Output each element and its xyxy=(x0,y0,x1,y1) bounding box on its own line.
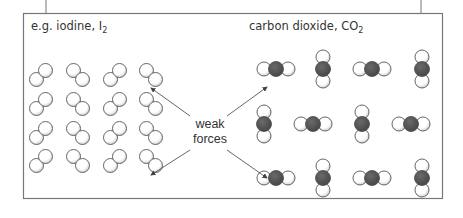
co2-molecule xyxy=(257,62,295,77)
iodine-molecule xyxy=(30,64,53,87)
iodine-molecule xyxy=(30,122,53,145)
iodine-label: e.g. iodine, I2 xyxy=(31,19,107,35)
co2-label: carbon dioxide, CO2 xyxy=(249,19,363,35)
iodine-molecule xyxy=(140,64,163,87)
iodine-molecule xyxy=(67,93,90,116)
iodine-molecule xyxy=(140,93,163,116)
iodine-molecule xyxy=(67,122,90,145)
iodine-molecule xyxy=(104,93,127,116)
co2-molecule xyxy=(316,159,331,197)
co2-molecule xyxy=(415,159,430,197)
co2-molecule xyxy=(415,50,430,88)
iodine-molecule xyxy=(104,64,127,87)
co2-molecule xyxy=(355,105,370,143)
iodine-molecule xyxy=(140,150,163,173)
co2-molecule xyxy=(316,50,331,88)
iodine-molecule xyxy=(140,122,163,145)
co2-molecule xyxy=(294,117,332,132)
weak-forces-line2: forces xyxy=(185,132,235,147)
co2-molecule xyxy=(257,171,295,186)
iodine-molecule xyxy=(67,150,90,173)
weak-forces-label: weak forces xyxy=(185,117,235,147)
weak-forces-line1: weak xyxy=(185,117,235,132)
co2-molecule xyxy=(257,105,272,143)
iodine-molecule xyxy=(67,64,90,87)
iodine-molecule xyxy=(30,150,53,173)
co2-molecule xyxy=(353,62,391,77)
iodine-molecule xyxy=(104,122,127,145)
iodine-molecule xyxy=(104,150,127,173)
co2-molecule xyxy=(392,117,430,132)
iodine-molecule xyxy=(30,93,53,116)
iodine-molecules xyxy=(30,64,163,173)
co2-molecule xyxy=(353,171,391,186)
co2-molecules xyxy=(257,50,431,197)
